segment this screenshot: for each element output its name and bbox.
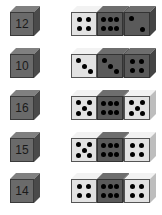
die-dark-3 <box>97 48 127 78</box>
pip-icon <box>139 68 144 73</box>
pip-icon <box>108 143 113 148</box>
pip-icon <box>108 152 113 157</box>
puzzle-row: 15 <box>0 132 162 166</box>
pip-icon <box>114 69 119 74</box>
sum-label: 14 <box>10 179 34 203</box>
pip-icon <box>139 184 144 189</box>
pip-icon <box>114 184 119 189</box>
pip-icon <box>82 106 87 111</box>
pip-icon <box>114 101 119 106</box>
pip-icon <box>114 26 119 31</box>
pip-icon <box>139 193 144 198</box>
sum-label: 12 <box>10 12 34 36</box>
pip-icon <box>130 143 135 148</box>
pip-icon <box>82 64 87 69</box>
pip-icon <box>140 27 145 32</box>
puzzle-row: 10 <box>0 48 162 82</box>
pip-icon <box>76 153 81 158</box>
pip-icon <box>86 184 91 189</box>
pip-icon <box>114 193 119 198</box>
pip-icon <box>101 17 106 22</box>
pip-icon <box>101 143 106 148</box>
pip-icon <box>101 101 106 106</box>
sum-label: 16 <box>10 96 34 120</box>
pip-icon <box>108 193 113 198</box>
die-dark-2 <box>124 6 154 36</box>
pip-icon <box>76 111 81 116</box>
pip-icon <box>130 152 135 157</box>
pip-icon <box>114 143 119 148</box>
pip-icon <box>88 69 93 74</box>
pip-icon <box>76 142 81 147</box>
pip-icon <box>135 106 140 111</box>
die-light-4 <box>124 173 154 203</box>
pip-icon <box>87 100 92 105</box>
pip-icon <box>86 193 91 198</box>
pip-icon <box>108 101 113 106</box>
pip-icon <box>77 193 82 198</box>
pip-icon <box>86 26 91 31</box>
pip-icon <box>140 111 145 116</box>
pip-icon <box>139 59 144 64</box>
pip-icon <box>87 142 92 147</box>
pip-icon <box>114 17 119 22</box>
pip-icon <box>108 26 113 31</box>
sum-label: 10 <box>10 54 34 78</box>
pip-icon <box>101 193 106 198</box>
pip-icon <box>130 193 135 198</box>
pip-icon <box>101 26 106 31</box>
pip-icon <box>129 16 134 21</box>
pip-icon <box>101 184 106 189</box>
pip-icon <box>130 59 135 64</box>
die-light-4 <box>124 132 154 162</box>
pip-icon <box>76 100 81 105</box>
puzzle-row: 16 <box>0 90 162 124</box>
pip-icon <box>108 17 113 22</box>
pip-icon <box>108 184 113 189</box>
pip-icon <box>114 152 119 157</box>
pip-icon <box>77 26 82 31</box>
pip-icon <box>77 17 82 22</box>
pip-icon <box>130 184 135 189</box>
pip-icon <box>130 68 135 73</box>
pip-icon <box>87 153 92 158</box>
sum-label: 15 <box>10 138 34 162</box>
die-light-5 <box>124 90 154 120</box>
pip-icon <box>87 111 92 116</box>
pip-icon <box>101 110 106 115</box>
pip-icon <box>101 152 106 157</box>
pip-icon <box>102 58 107 63</box>
pip-icon <box>129 111 134 116</box>
pip-icon <box>82 148 87 153</box>
pip-icon <box>139 152 144 157</box>
puzzle-row: 12 <box>0 6 162 40</box>
die-dark-6 <box>97 6 127 36</box>
die-dark-6 <box>97 173 127 203</box>
pip-icon <box>108 110 113 115</box>
pip-icon <box>76 58 81 63</box>
puzzle-row: 14 <box>0 173 162 207</box>
pip-icon <box>77 184 82 189</box>
pip-icon <box>86 17 91 22</box>
die-dark-6 <box>97 132 127 162</box>
die-dark-4 <box>124 48 154 78</box>
pip-icon <box>108 64 113 69</box>
pip-icon <box>140 100 145 105</box>
die-dark-6 <box>97 90 127 120</box>
pip-icon <box>139 143 144 148</box>
pip-icon <box>114 110 119 115</box>
pip-icon <box>129 100 134 105</box>
